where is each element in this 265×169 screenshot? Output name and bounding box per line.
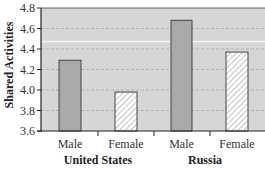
y-tick-label: 4.0 <box>20 83 35 97</box>
bar-male <box>59 60 81 131</box>
y-tick-label: 4.8 <box>20 1 35 15</box>
x-tick-label: Female <box>108 137 143 151</box>
bar-chart: 3.63.84.04.24.44.64.8MaleFemaleMaleFemal… <box>0 0 265 169</box>
x-tick-label: Female <box>219 137 254 151</box>
y-tick-label: 3.8 <box>20 104 35 118</box>
bar-male <box>171 20 192 131</box>
bar-female <box>226 52 248 131</box>
plot-area: 3.63.84.04.24.44.64.8MaleFemaleMaleFemal… <box>20 1 265 167</box>
y-tick-label: 3.6 <box>20 124 35 138</box>
y-tick-label: 4.6 <box>20 22 35 36</box>
group-label: Russia <box>188 153 222 167</box>
x-tick-label: Male <box>169 137 194 151</box>
bar-female <box>115 92 137 131</box>
y-tick-label: 4.4 <box>20 42 35 56</box>
group-label: United States <box>64 153 133 167</box>
x-tick-label: Male <box>58 137 83 151</box>
y-tick-label: 4.2 <box>20 63 35 77</box>
